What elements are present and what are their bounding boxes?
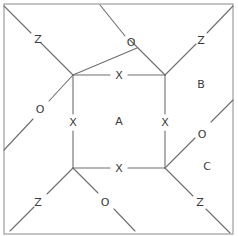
label-o-left: O — [36, 103, 45, 116]
label-c-region: C — [203, 160, 211, 173]
label-x-top: X — [115, 69, 123, 82]
label-a-region: A — [115, 115, 123, 128]
label-o-top-center: O — [127, 36, 136, 49]
label-x-bottom: X — [115, 162, 123, 175]
label-x-right: X — [161, 116, 169, 129]
label-z-bottom-right: Z — [196, 196, 204, 209]
diagram-root: ZOZXBOXAXOXCZOZ — [0, 0, 238, 236]
label-o-bottom-center: O — [101, 196, 110, 209]
label-o-right: O — [198, 128, 207, 141]
label-z-top-left: Z — [34, 33, 42, 46]
label-z-top-right: Z — [197, 34, 205, 47]
label-b-region: B — [197, 78, 205, 91]
label-z-bottom-left: Z — [34, 196, 42, 209]
label-x-left: X — [69, 116, 77, 129]
geometric-diagram: ZOZXBOXAXOXCZOZ — [0, 0, 238, 236]
